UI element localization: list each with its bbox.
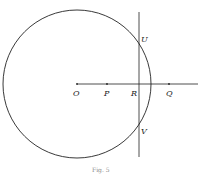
label-V: V xyxy=(141,127,148,136)
label-U: U xyxy=(141,35,148,44)
label-R: R xyxy=(130,89,137,98)
figure-caption: Fig. 5 xyxy=(92,166,110,174)
label-P: P xyxy=(103,89,110,98)
point-P xyxy=(106,83,108,85)
point-Q xyxy=(168,83,170,85)
label-O: O xyxy=(73,89,80,98)
geometry-diagram: O P R Q U V Fig. 5 xyxy=(0,0,201,175)
point-O xyxy=(76,83,78,85)
label-Q: Q xyxy=(166,89,173,98)
